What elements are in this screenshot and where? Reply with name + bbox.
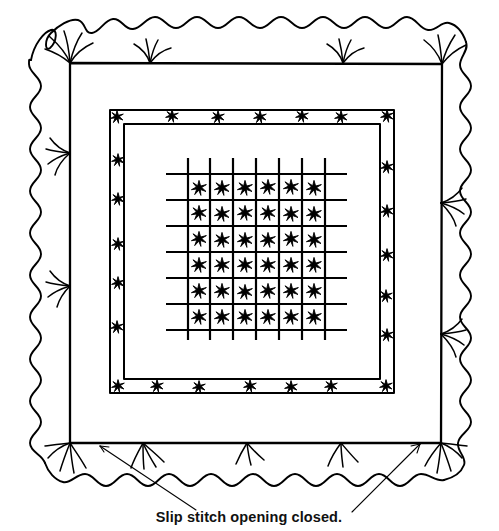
tuft-top-a [134,39,171,63]
left-arrow-leader [100,446,196,510]
tuft-top-right-corner [424,35,466,64]
tuft-left-b [46,271,70,307]
tuft-bottom-a [131,443,164,469]
pillow-diagram: Slip stitch opening closed. [0,0,499,531]
tuft-left-a [46,138,70,175]
tuft-bottom-b [236,443,264,465]
tuft-bottom-c [328,443,358,467]
ruffle-bottom-edge [45,463,444,486]
ruffle-right-edge [444,42,471,480]
tuft-bottom-left-corner [45,443,86,473]
tuft-right-a [441,188,466,226]
diagram-canvas: Slip stitch opening closed. [0,0,499,531]
grid-vertical-lines [188,158,325,340]
tuft-top-b [327,39,364,63]
caption-label: Slip stitch opening closed. [156,509,342,525]
ruffle-top-edge [31,17,466,60]
right-arrow-leader [352,444,420,512]
ruffle-left-edge [29,60,45,463]
tufting-grid-group [166,158,347,340]
tuft-bottom-right-corner [425,443,467,473]
